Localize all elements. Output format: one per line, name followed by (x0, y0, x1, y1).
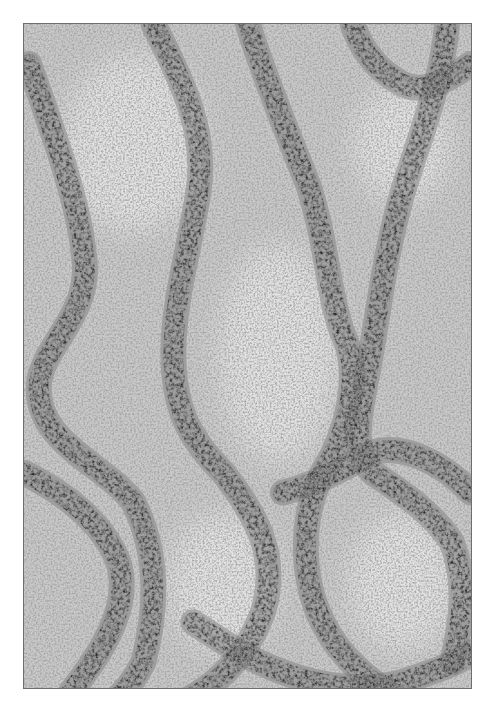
micrograph-image (24, 24, 471, 688)
page-canvas (0, 0, 483, 713)
micrograph-frame (23, 23, 472, 689)
grain-overlay (24, 24, 471, 688)
